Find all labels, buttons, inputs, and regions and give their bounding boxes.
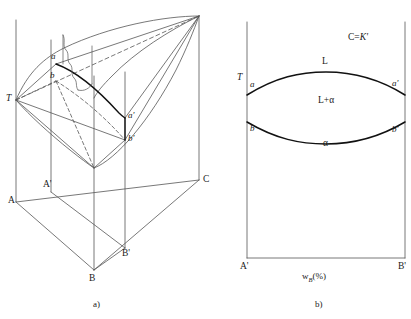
panel-b-composition-axis-title: wB(%) xyxy=(302,272,326,283)
base-section-edge-Bprime-B xyxy=(94,248,125,270)
panel-a-point-label-a-prime: a' xyxy=(128,111,134,120)
panel-b-axis-label-temperature: T xyxy=(237,73,242,83)
panel-a-point-label-b: b xyxy=(50,71,55,80)
ruling-T-to-bprime xyxy=(16,100,125,140)
section-label-prefix: C= xyxy=(348,32,360,42)
hidden-solidus-interior-curve xyxy=(56,81,125,140)
base-edge-A-B xyxy=(16,202,94,270)
panel-b-region-label-liquid: L xyxy=(322,57,328,67)
liquidus-surface-front-edge xyxy=(94,16,199,98)
base-section-line-Aprime-Bprime xyxy=(51,192,125,248)
panel-b-point-label-a: a xyxy=(250,80,255,89)
panel-b-point-label-b-prime: b' xyxy=(392,125,398,134)
panel-a-drawing xyxy=(16,16,199,270)
panel-b-region-label-two-phase: L+α xyxy=(318,96,334,106)
panel-a-vertex-label-B-prime: B' xyxy=(122,249,130,259)
section-plane-edge-a-to-aprime-chord xyxy=(56,16,199,64)
section-plane-edge-basenode-to-bprime xyxy=(94,140,125,168)
composition-units: (%) xyxy=(312,271,326,281)
panel-b-corner-label-A-prime: A' xyxy=(240,262,249,272)
solidus-surface-front-edge xyxy=(94,16,199,168)
panel-b-liquidus-curve xyxy=(247,72,405,95)
section-liquidus-curve-a-aprime xyxy=(56,64,125,118)
panel-a-vertex-label-T: T xyxy=(6,94,11,104)
base-edge-B-C xyxy=(94,180,199,270)
panel-b-corner-label-B-prime: B' xyxy=(398,262,406,272)
panel-b-point-label-b: b xyxy=(250,124,255,133)
panel-a-vertex-label-A-prime: A' xyxy=(43,180,52,190)
panel-a-point-label-a: a xyxy=(51,52,56,61)
caption-panel-b: b) xyxy=(315,300,323,309)
panel-a-point-label-b-prime: b' xyxy=(128,134,134,143)
panel-b-point-label-a-prime: a' xyxy=(392,79,398,88)
panel-a-vertex-label-A: A xyxy=(8,196,15,206)
section-cut-wavy-brace xyxy=(63,35,78,90)
figure-drawing-canvas xyxy=(0,0,411,319)
panel-b-section-composition-label: C=K' xyxy=(348,33,368,43)
section-plane-edge-aprime-to-apex xyxy=(125,16,199,118)
hidden-line-b-to-base-node xyxy=(56,81,94,168)
ruling-T-to-base-node xyxy=(16,100,94,168)
figure-root: A A' B B' C T a b a' b' T a b a' b' L L+… xyxy=(0,0,411,319)
caption-panel-a: a) xyxy=(93,300,100,309)
panel-a-vertex-label-C: C xyxy=(203,175,209,185)
panel-a-vertex-label-B: B xyxy=(89,274,95,284)
section-label-value: K' xyxy=(360,32,368,42)
section-plane-edge-bprime-to-apex xyxy=(125,16,199,140)
panel-b-region-label-solid-alpha: α xyxy=(323,139,328,149)
